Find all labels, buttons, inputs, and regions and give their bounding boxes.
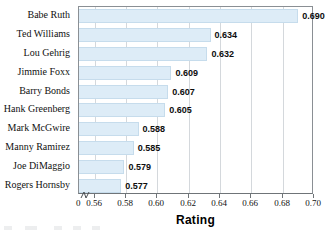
page-artifact xyxy=(4,226,100,230)
category-label: Jimmie Foxx xyxy=(17,65,70,79)
bar-value-label: 0.690 xyxy=(302,8,325,24)
bar-row: 0.607 xyxy=(79,85,314,99)
bar[interactable] xyxy=(79,103,165,117)
category-axis-labels: Babe RuthTed WilliamsLou GehrigJimmie Fo… xyxy=(0,6,74,194)
category-label: Babe Ruth xyxy=(28,8,71,22)
category-label: Mark McGwire xyxy=(8,121,70,135)
bar-row: 0.588 xyxy=(79,122,314,136)
category-label: Barry Bonds xyxy=(19,84,70,98)
bar-value-label: 0.579 xyxy=(128,159,151,175)
bar-row: 0.579 xyxy=(79,160,314,174)
category-label: Rogers Hornsby xyxy=(5,178,70,192)
bar[interactable] xyxy=(79,28,211,42)
bar-value-label: 0.605 xyxy=(169,102,192,118)
bar[interactable] xyxy=(79,47,207,61)
bar[interactable] xyxy=(79,122,139,136)
category-label: Joe DiMaggio xyxy=(13,159,70,173)
bar-value-label: 0.609 xyxy=(175,65,198,81)
x-tick-label: 0.70 xyxy=(293,198,328,208)
bar[interactable] xyxy=(79,85,168,99)
plot-area: 0.6900.6340.6320.6090.6070.6050.5880.585… xyxy=(78,6,313,194)
bar-value-label: 0.588 xyxy=(143,121,166,137)
bar[interactable] xyxy=(79,141,134,155)
bar-row: 0.634 xyxy=(79,28,314,42)
bar-row: 0.605 xyxy=(79,103,314,117)
bar-row: 0.577 xyxy=(79,179,314,193)
bar-value-label: 0.607 xyxy=(172,84,195,100)
x-axis-title: Rating xyxy=(78,213,313,227)
category-label: Ted Williams xyxy=(17,27,70,41)
bar[interactable] xyxy=(79,9,298,23)
bar-value-label: 0.585 xyxy=(138,140,161,156)
bar-row: 0.609 xyxy=(79,66,314,80)
bar-row: 0.632 xyxy=(79,47,314,61)
bar-chart-figure: Babe RuthTed WilliamsLou GehrigJimmie Fo… xyxy=(0,0,328,235)
category-label: Lou Gehrig xyxy=(24,46,70,60)
bar-row: 0.690 xyxy=(79,9,314,23)
x-axis: 0.560.580.600.620.640.660.680.700 xyxy=(78,194,313,214)
category-label: Hank Greenberg xyxy=(4,102,70,116)
bar-value-label: 0.634 xyxy=(215,27,238,43)
bar-value-label: 0.577 xyxy=(125,178,148,194)
x-origin-label: 0 xyxy=(76,198,81,208)
bar[interactable] xyxy=(79,66,171,80)
bar[interactable] xyxy=(79,160,124,174)
category-label: Manny Ramirez xyxy=(5,140,70,154)
bar-row: 0.585 xyxy=(79,141,314,155)
bar-value-label: 0.632 xyxy=(211,46,234,62)
